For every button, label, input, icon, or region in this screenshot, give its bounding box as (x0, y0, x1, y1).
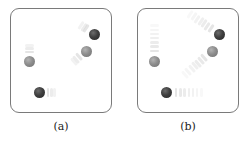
motion-trail-segment (150, 41, 159, 44)
light-particle (207, 46, 218, 57)
light-particle (81, 46, 92, 57)
motion-trail-segment (53, 88, 56, 97)
motion-trail-segment (150, 45, 159, 48)
light-particle (24, 56, 35, 67)
motion-trail-segment (200, 88, 203, 97)
panel-b-label: (b) (168, 120, 208, 133)
motion-trail-segment (183, 88, 186, 97)
motion-trail-segment (50, 88, 53, 97)
dark-particle (89, 29, 100, 40)
motion-trail-segment (25, 51, 34, 54)
dark-particle (214, 29, 225, 40)
dark-particle (161, 87, 172, 98)
motion-trail-segment (192, 88, 195, 97)
motion-trail-segment (150, 50, 159, 53)
motion-trail-segment (150, 24, 159, 27)
light-particle (149, 56, 160, 67)
dark-particle (34, 87, 45, 98)
motion-trail-segment (25, 44, 34, 47)
motion-trail-segment (188, 88, 191, 97)
motion-trail-segment (179, 88, 182, 97)
motion-trail-segment (150, 29, 159, 32)
panel-a-label: (a) (41, 120, 81, 133)
motion-trail-segment (25, 47, 34, 50)
motion-trail-segment (150, 33, 159, 36)
